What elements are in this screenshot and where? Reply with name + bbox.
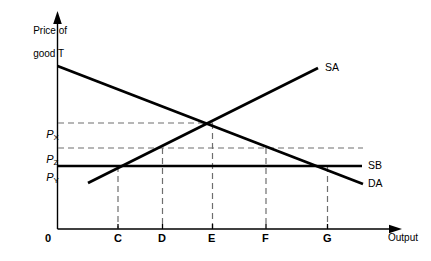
supply-demand-figure: Price of good T Output 0 C D E F G PX PZ… [0,0,431,261]
x-tick-marks-group [118,224,328,229]
curve-label-da: DA [368,178,383,190]
y-tick-label-px-base: P [46,128,53,140]
y-axis-title: Price of good T [22,14,67,70]
x-tick-label-d: D [158,232,166,244]
x-tick-label-c: C [114,232,122,244]
y-tick-label-py-sub: Y [54,176,59,185]
x-tick-label-e: E [208,232,215,244]
y-axis-title-line2: good T [33,48,64,59]
y-tick-label-py: PY [34,159,59,197]
x-axis-title: Output [388,232,418,243]
x-tick-label-f: F [262,232,269,244]
y-axis-title-line1: Price of [33,25,67,36]
curve-label-sb: SB [368,160,382,172]
y-tick-label-py-base: P [46,171,53,183]
x-tick-label-g: G [323,232,332,244]
origin-label: 0 [45,232,51,244]
curve-label-sa: SA [325,62,339,74]
axes-group [53,11,402,233]
